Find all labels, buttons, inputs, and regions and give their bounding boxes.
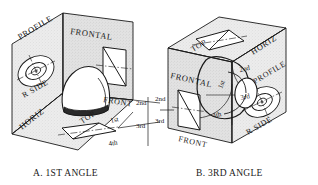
panel-a-label-3rd: 3rd [136, 122, 146, 130]
panel-a-label-1st: 1st [110, 115, 120, 125]
panel-b-caption: B. 3RD ANGLE [196, 168, 263, 178]
panel-a-projection-box: PROFILE FRONTAL HORIZ R SIDE FRONT TOP 1… [12, 13, 160, 150]
panel-a-label-2nd: 2nd [136, 99, 147, 107]
panel-b-label-2nd-edge: 2nd [155, 95, 166, 103]
panel-a-caption: A. 1ST ANGLE [33, 168, 98, 178]
panel-b-projection-box: FRONTAL HORIZ PROFILE TOP FRONT R SIDE 1… [155, 17, 287, 150]
panel-a-quadrant-axis-fold [118, 112, 133, 128]
panel-b-label-3rd-edge: 3rd [155, 117, 165, 125]
panel-a-label-4th: 4th [108, 138, 119, 148]
projection-angle-figure: PROFILE FRONTAL HORIZ R SIDE FRONT TOP 1… [0, 0, 318, 185]
